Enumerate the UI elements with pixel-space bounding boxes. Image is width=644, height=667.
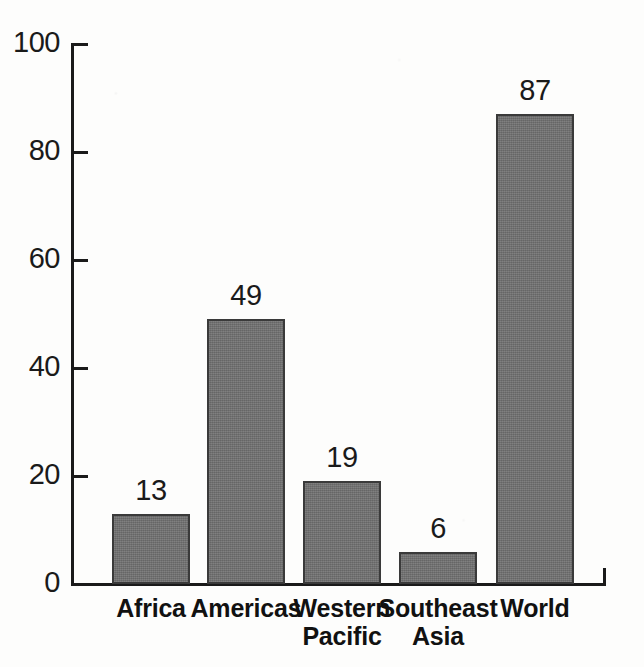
bar-world: [496, 114, 574, 584]
y-axis-tick-label: 20: [0, 460, 60, 489]
bar-value-label: 6: [379, 514, 497, 543]
bar-americas: [207, 319, 285, 584]
y-axis-tick-mark: [71, 43, 88, 46]
category-label-line-2: Asia: [373, 622, 503, 650]
bar-southeast-asia: [399, 552, 477, 584]
plot-area: 100806040200 13Africa49Americas19Western…: [0, 0, 644, 667]
y-axis-tick-mark: [71, 583, 88, 586]
y-axis-tick-mark: [71, 259, 88, 262]
y-axis-tick-label: 0: [0, 568, 60, 597]
bar-value-label: 87: [476, 76, 594, 105]
bar-western-pacific: [303, 481, 381, 584]
y-axis-line: [71, 43, 74, 585]
y-axis-tick-mark: [71, 367, 88, 370]
y-axis-tick-label: 80: [0, 136, 60, 165]
y-axis-tick-label: 40: [0, 352, 60, 381]
bar-value-label: 19: [283, 443, 401, 472]
y-axis-tick-label: 100: [0, 28, 60, 57]
bar-africa: [112, 514, 190, 584]
bar-value-label: 49: [187, 281, 305, 310]
category-label-line-1: World: [470, 594, 600, 622]
y-axis-tick-mark: [71, 475, 88, 478]
x-axis-end-tick: [603, 568, 606, 586]
x-axis-category-label: World: [470, 594, 600, 622]
y-axis-tick-label: 60: [0, 244, 60, 273]
y-axis-tick-mark: [71, 151, 88, 154]
bar-value-label: 13: [92, 476, 210, 505]
bar-chart-figure: 100806040200 13Africa49Americas19Western…: [0, 0, 644, 667]
